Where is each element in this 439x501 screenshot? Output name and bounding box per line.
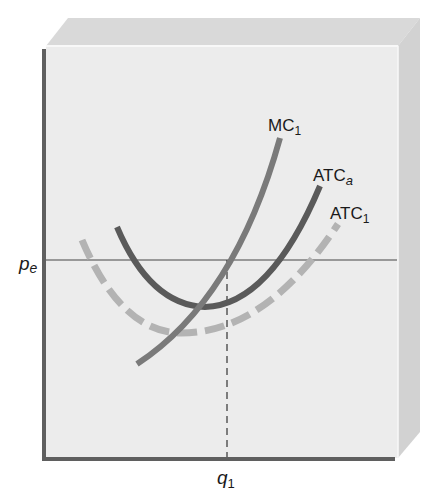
panel-top-face [46,18,420,46]
panel-front-face [46,46,398,458]
quantity-label: q1 [217,467,235,491]
price-label: pe [18,253,38,276]
cost-curve-diagram: MC1 ATCa ATC1 pe q1 [0,0,439,501]
panel-side-face [398,18,420,458]
